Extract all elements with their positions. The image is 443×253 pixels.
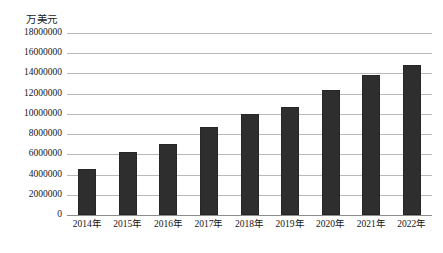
bar xyxy=(403,65,421,215)
bar xyxy=(119,152,137,215)
x-tick-label: 2017年 xyxy=(194,219,223,229)
x-axis-labels: 2014年2015年2016年2017年2018年2019年2020年2021年… xyxy=(67,219,432,239)
x-tick-label: 2015年 xyxy=(113,219,142,229)
y-axis-unit-title: 万美元 xyxy=(26,11,58,26)
x-tick-label: 2019年 xyxy=(276,219,305,229)
gridline xyxy=(67,73,432,74)
y-tick-label: 14000000 xyxy=(24,69,62,79)
bar xyxy=(78,169,96,216)
y-tick-label: 4000000 xyxy=(29,170,62,180)
axis-baseline xyxy=(67,215,432,216)
y-tick-label: 16000000 xyxy=(24,48,62,58)
gridline xyxy=(67,33,432,34)
x-tick-label: 2020年 xyxy=(316,219,345,229)
x-tick-label: 2016年 xyxy=(154,219,183,229)
y-tick-label: 6000000 xyxy=(29,150,62,160)
bar xyxy=(159,144,177,215)
bar xyxy=(322,90,340,215)
y-tick-label: 12000000 xyxy=(24,89,62,99)
bar xyxy=(281,107,299,215)
y-tick-label: 8000000 xyxy=(29,129,62,139)
bar xyxy=(362,75,380,215)
y-tick-label: 10000000 xyxy=(24,109,62,119)
y-axis-labels: 0200000040000006000000800000010000000120… xyxy=(0,33,62,215)
bar xyxy=(200,127,218,215)
x-tick-label: 2018年 xyxy=(235,219,264,229)
x-tick-label: 2014年 xyxy=(73,219,102,229)
bar xyxy=(241,114,259,215)
gridline xyxy=(67,53,432,54)
y-tick-label: 0 xyxy=(57,210,62,220)
x-tick-label: 2022年 xyxy=(397,219,426,229)
bar-chart: 万美元 020000004000000600000080000001000000… xyxy=(0,0,443,253)
y-tick-label: 18000000 xyxy=(24,28,62,38)
x-tick-label: 2021年 xyxy=(357,219,386,229)
plot-area xyxy=(67,33,432,215)
y-tick-label: 2000000 xyxy=(29,190,62,200)
